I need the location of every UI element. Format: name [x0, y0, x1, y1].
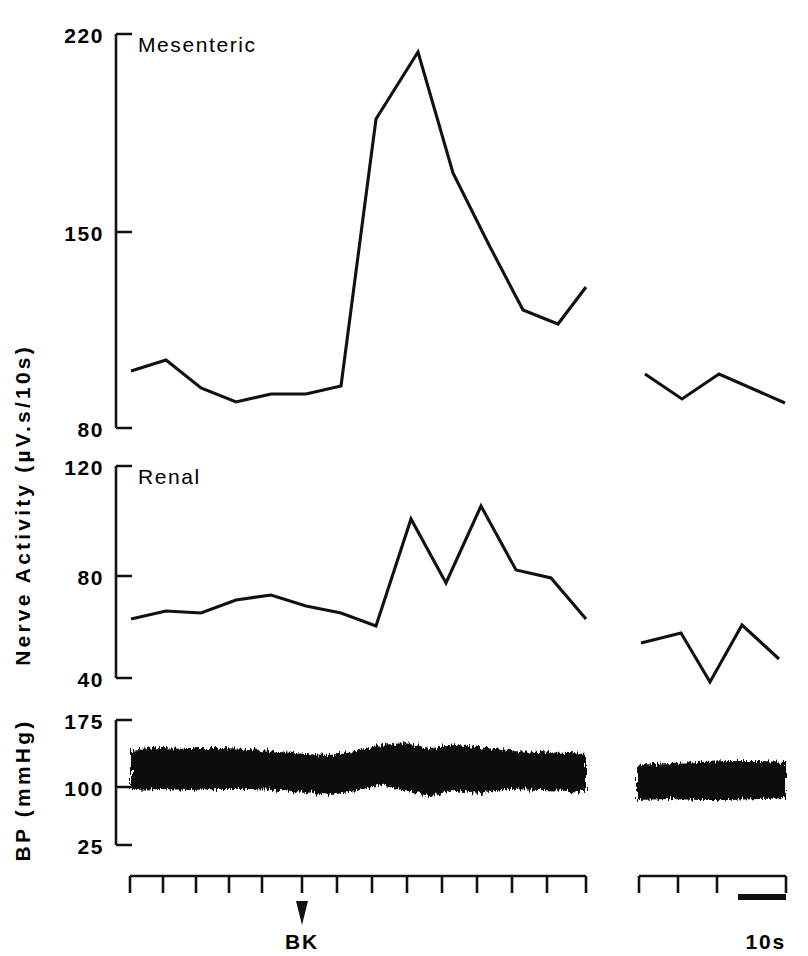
bp-band-recovery: [637, 761, 786, 800]
panel-title-renal: Renal: [138, 465, 201, 488]
bp-ytick-175: 175: [64, 710, 104, 733]
mesenteric-ytick-220: 220: [64, 24, 104, 47]
y-axis-label-bp: BP (mmHg): [11, 719, 34, 862]
scale-bar-label: 10s: [746, 930, 786, 953]
bp-ytick-100: 100: [64, 777, 104, 800]
figure-panel: Nerve Activity (µV.s/10s) BP (mmHg) 220 …: [0, 0, 808, 956]
renal-ytick-80: 80: [77, 566, 104, 589]
figure-background: [0, 0, 808, 956]
bk-event-label: BK: [285, 930, 319, 953]
bp-ytick-25: 25: [77, 835, 104, 858]
mesenteric-ytick-80: 80: [77, 418, 104, 441]
renal-ytick-120: 120: [64, 456, 104, 479]
mesenteric-ytick-150: 150: [64, 222, 104, 245]
y-axis-label-nerve-activity: Nerve Activity (µV.s/10s): [11, 344, 34, 666]
physiological-recording-figure: Nerve Activity (µV.s/10s) BP (mmHg) 220 …: [0, 0, 808, 956]
panel-title-mesenteric: Mesenteric: [138, 33, 257, 56]
renal-ytick-40: 40: [77, 668, 104, 691]
